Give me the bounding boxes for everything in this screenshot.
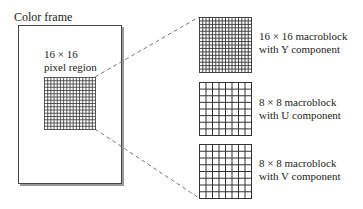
- u-block-label-line1: 8 × 8 macroblock: [259, 96, 336, 109]
- v-macroblock-grid: [200, 145, 252, 199]
- y-macroblock-grid: [200, 18, 252, 73]
- u-block-label-line2: with U component: [259, 109, 341, 122]
- u-macroblock-grid: [200, 83, 252, 136]
- region-label-text: pixel region: [44, 61, 97, 74]
- v-block-label-line1: 8 × 8 macroblock: [259, 157, 336, 170]
- y-block-label-line2: with Y component: [259, 43, 340, 56]
- pixel-region-grid: [45, 78, 96, 130]
- region-label-size: 16 × 16: [44, 48, 78, 61]
- v-block-label-line2: with V component: [259, 170, 340, 183]
- frame-title: Color frame: [14, 11, 72, 24]
- y-block-label-line1: 16 × 16 macroblock: [259, 30, 347, 43]
